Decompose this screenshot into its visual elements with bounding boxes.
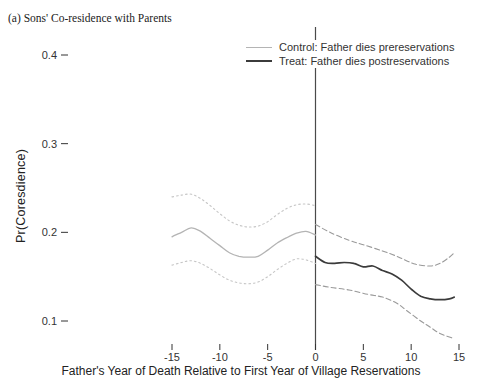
x-tick-label: -15 <box>164 351 180 363</box>
x-tick-label: -5 <box>263 351 273 363</box>
control-line-sample <box>246 47 272 48</box>
x-tick-label: -10 <box>212 351 228 363</box>
treat-upper-ci-line <box>316 224 455 266</box>
x-tick-label: 0 <box>312 351 318 363</box>
legend-item-control: Control: Father dies prereservations <box>246 40 454 54</box>
legend-item-treat: Treat: Father dies postreservations <box>246 54 454 68</box>
treat-lower-ci-line <box>316 285 455 339</box>
x-axis-label: Father's Year of Death Relative to First… <box>0 364 482 378</box>
y-tick-label: 0.4 <box>42 49 57 61</box>
x-tick-label: 5 <box>360 351 366 363</box>
y-axis-label: Pr(Coresdience) <box>14 149 28 243</box>
legend-label-treat: Treat: Father dies postreservations <box>279 55 449 67</box>
control-line <box>172 228 316 257</box>
treat-line <box>316 256 455 299</box>
x-tick-label: 15 <box>453 351 465 363</box>
y-tick-label: 0.2 <box>42 226 57 238</box>
y-tick-label: 0.3 <box>42 138 57 150</box>
treat-line-sample <box>246 60 272 62</box>
legend: Control: Father dies prereservations Tre… <box>246 40 456 68</box>
x-tick-label: 10 <box>405 351 417 363</box>
figure-panel: (a) Sons' Co-residence with Parents -15-… <box>0 0 482 389</box>
legend-label-control: Control: Father dies prereservations <box>279 41 454 53</box>
y-tick-label: 0.1 <box>42 315 57 327</box>
control-upper-ci-line <box>172 194 316 227</box>
control-lower-ci-line <box>172 259 316 284</box>
